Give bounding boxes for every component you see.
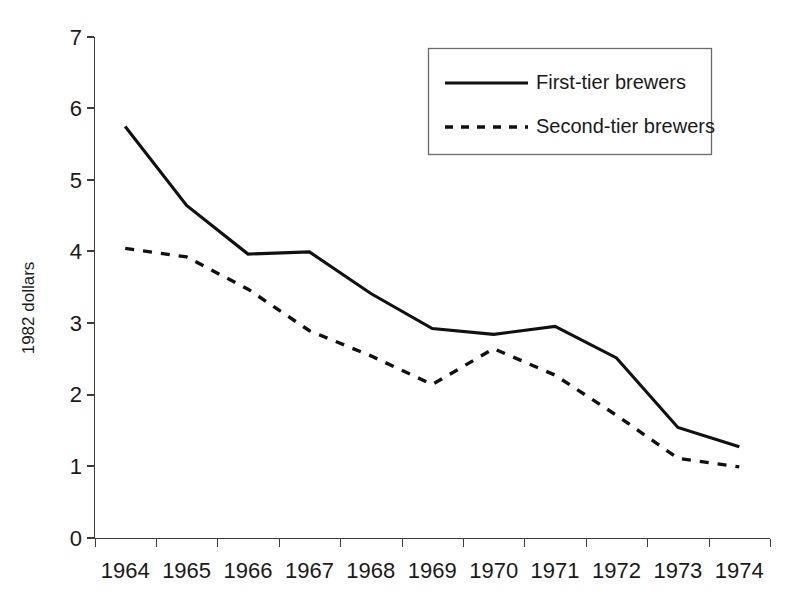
y-tick-label-2: 2	[70, 382, 82, 407]
x-tick-label-1964: 1964	[101, 558, 150, 583]
series-line-second-tier	[125, 248, 739, 467]
x-axis-labels: 1964196519661967196819691970197119721973…	[101, 558, 764, 583]
series-line-first-tier	[125, 127, 739, 447]
x-tick-label-1965: 1965	[162, 558, 211, 583]
legend-box	[429, 49, 712, 155]
x-tick-label-1967: 1967	[285, 558, 334, 583]
x-tick-label-1966: 1966	[224, 558, 273, 583]
y-tick-label-5: 5	[70, 168, 82, 193]
x-tick-label-1973: 1973	[653, 558, 702, 583]
legend-label-second-tier: Second-tier brewers	[536, 115, 715, 137]
legend-label-first-tier: First-tier brewers	[536, 71, 686, 93]
chart-legend: First-tier brewers Second-tier brewers	[429, 49, 715, 155]
y-tick-label-4: 4	[70, 239, 82, 264]
y-tick-label-6: 6	[70, 96, 82, 121]
x-axis-ticks	[96, 539, 771, 547]
y-axis-ticks	[87, 37, 94, 538]
chart-figure: 1982 dollars 7 6 5 4 3 2 1 0 19641965196…	[0, 0, 812, 615]
y-tick-label-0: 0	[70, 526, 82, 551]
y-axis-title: 1982 dollars	[19, 262, 38, 355]
x-tick-label-1972: 1972	[592, 558, 641, 583]
x-tick-label-1974: 1974	[715, 558, 764, 583]
y-tick-label-3: 3	[70, 311, 82, 336]
y-tick-label-1: 1	[70, 454, 82, 479]
x-tick-label-1969: 1969	[408, 558, 457, 583]
x-tick-label-1970: 1970	[469, 558, 518, 583]
x-tick-label-1971: 1971	[531, 558, 580, 583]
y-tick-label-7: 7	[70, 25, 82, 50]
line-chart: 1982 dollars 7 6 5 4 3 2 1 0 19641965196…	[0, 0, 812, 615]
x-tick-label-1968: 1968	[346, 558, 395, 583]
